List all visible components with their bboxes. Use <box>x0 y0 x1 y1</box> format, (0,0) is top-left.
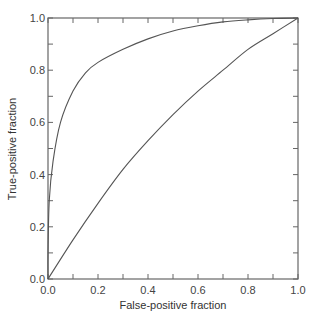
x-tick-label: 0.6 <box>190 284 205 296</box>
x-tick-label: 1.0 <box>290 284 305 296</box>
roc-chart: 0.00.20.40.60.81.0 0.00.20.40.60.81.0 Fa… <box>0 0 319 325</box>
y-axis-label: True-positive fraction <box>6 98 18 200</box>
y-tick-label: 0.0 <box>30 273 45 285</box>
y-tick-label: 0.4 <box>30 169 45 181</box>
x-tick-label: 0.8 <box>240 284 255 296</box>
y-tick-label: 0.6 <box>30 116 45 128</box>
x-tick-labels: 0.00.20.40.60.81.0 <box>40 284 305 296</box>
y-tick-label: 1.0 <box>30 12 45 24</box>
x-tick-label: 0.2 <box>90 284 105 296</box>
x-tick-label: 0.4 <box>140 284 155 296</box>
lower-roc-curve <box>48 18 298 279</box>
plot-border <box>48 18 298 279</box>
y-tick-label: 0.8 <box>30 64 45 76</box>
y-tick-labels: 0.00.20.40.60.81.0 <box>30 12 45 285</box>
roc-curves <box>48 18 298 279</box>
x-axis-label: False-positive fraction <box>120 299 227 311</box>
upper-roc-curve <box>48 18 298 279</box>
axis-ticks <box>48 18 298 279</box>
x-tick-label: 0.0 <box>40 284 55 296</box>
plot-frame <box>48 18 298 279</box>
y-tick-label: 0.2 <box>30 221 45 233</box>
